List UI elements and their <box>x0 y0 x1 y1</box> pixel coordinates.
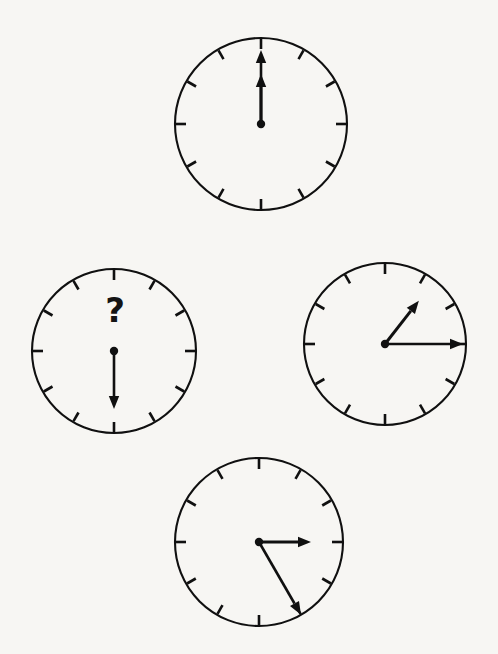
tick-mark <box>299 50 304 59</box>
clock-hand-hour-arrowhead-bottom <box>298 537 311 547</box>
tick-mark <box>316 304 325 309</box>
clock-faces-canvas <box>0 0 498 654</box>
tick-mark <box>74 281 79 290</box>
question-mark-label: ? <box>105 293 125 327</box>
tick-mark <box>218 470 223 479</box>
clock-hand-minute-arrowhead-left <box>109 396 119 409</box>
tick-mark <box>44 387 53 392</box>
clock-face-bottom <box>175 458 343 626</box>
tick-mark <box>175 387 184 392</box>
clock-hand-minute-arrowhead-top <box>256 50 266 63</box>
tick-mark <box>316 379 325 384</box>
tick-mark <box>446 304 455 309</box>
tick-mark <box>218 605 223 614</box>
tick-mark <box>322 501 331 506</box>
clock-hand-minute-arrowhead-right <box>450 339 463 349</box>
tick-mark <box>420 275 425 284</box>
tick-mark <box>219 50 224 59</box>
clock-face-top <box>175 38 347 210</box>
tick-mark <box>219 189 224 198</box>
clock-face-right <box>304 263 466 425</box>
tick-mark <box>446 379 455 384</box>
tick-mark <box>296 470 301 479</box>
tick-mark <box>150 412 155 421</box>
tick-mark <box>150 281 155 290</box>
tick-mark <box>187 579 196 584</box>
clock-hand-hour-right <box>385 311 411 344</box>
clock-hand-minute-bottom <box>259 542 295 603</box>
tick-mark <box>175 311 184 316</box>
tick-mark <box>322 579 331 584</box>
tick-mark <box>345 275 350 284</box>
tick-mark <box>326 162 335 167</box>
clock-puzzle-scene: ? <box>0 0 498 654</box>
tick-mark <box>187 82 196 87</box>
clock-center-pin-left <box>110 347 118 355</box>
tick-mark <box>299 189 304 198</box>
tick-mark <box>74 412 79 421</box>
clock-center-pin-top <box>257 120 265 128</box>
tick-mark <box>326 82 335 87</box>
clock-center-pin-bottom <box>255 538 263 546</box>
tick-mark <box>420 405 425 414</box>
tick-mark <box>345 405 350 414</box>
clock-center-pin-right <box>381 340 389 348</box>
clock-hand-minute-arrowhead-bottom <box>290 601 301 615</box>
tick-mark <box>187 501 196 506</box>
tick-mark <box>187 162 196 167</box>
tick-mark <box>44 311 53 316</box>
